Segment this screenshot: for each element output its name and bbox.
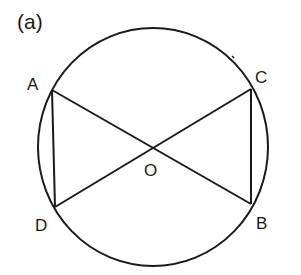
point-label-c: C — [255, 68, 267, 87]
tick-mark — [232, 56, 234, 58]
circle-chord-diagram: (a) A B C D O — [0, 0, 301, 275]
point-label-b: B — [256, 214, 267, 233]
chord-c-d — [55, 89, 251, 207]
figure-label: (a) — [17, 10, 43, 33]
point-label-d: D — [35, 216, 47, 235]
point-label-o: O — [144, 161, 157, 180]
point-label-a: A — [27, 75, 39, 94]
chord-a-d — [52, 90, 55, 207]
